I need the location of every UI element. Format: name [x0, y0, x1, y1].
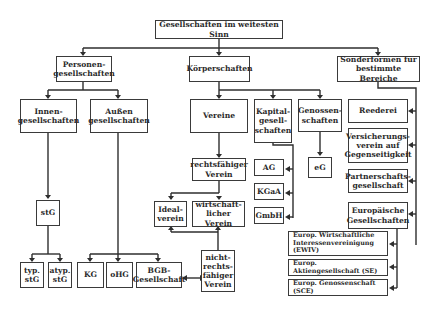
node-atyp-stg: atyp. stG: [48, 262, 72, 288]
node-rechtsfaehiger-verein: rechtsfähiger Verein: [192, 158, 246, 181]
node-root: Gesellschaften im weitesten Sinn: [155, 20, 283, 39]
node-sce: Europ. Genossenschaft (SCE): [288, 279, 388, 296]
node-genossenschaften: Genossen- schaften: [298, 99, 342, 132]
node-se: Europ. Aktiengesellschaft (SE): [288, 259, 388, 276]
node-kapitalgesellschaften: Kapital- gesell- schaften: [254, 99, 292, 143]
node-sonderformen: Sonderformen für bestimmte Bereiche: [337, 56, 420, 82]
node-ag: AG: [254, 159, 284, 176]
node-kgaa: KGaA: [254, 183, 284, 200]
legal-forms-diagram: Gesellschaften im weitesten Sinn Persone…: [0, 0, 435, 310]
node-partnerschaftsgesellschaft: Partnerschafts- gesellschaft: [348, 169, 408, 193]
node-personengesellschaften: Personen- gesellschaften: [56, 56, 112, 82]
node-aussengesellschaften: Außen gesellschaften: [90, 99, 148, 133]
node-ewiv: Europ. Wirtschaftliche Interessenvereini…: [288, 231, 388, 256]
node-idealverein: Ideal- verein: [154, 201, 187, 227]
node-eg: eG: [308, 157, 332, 178]
node-wirtschaftlicher-verein: wirtschaft- licher Verein: [192, 201, 245, 227]
node-kg: KG: [77, 262, 104, 288]
node-innengesellschaften: Innen- gesellschaften: [20, 99, 77, 133]
node-stg: stG: [36, 200, 60, 226]
node-reederei: Reederei: [348, 99, 408, 123]
node-nichtrechtsfaehiger-verein: nicht- rechts- fähiger Verein: [201, 250, 235, 292]
node-bgb-gesellschaft: BGB- Gesellschaft: [136, 262, 182, 288]
node-gmbh: GmbH: [254, 207, 284, 224]
node-versicherungsverein: Versicherungs- verein auf Gegenseitigkei…: [348, 128, 408, 163]
node-europaeische-gesellschaften: Europäische Gesellschaften: [348, 202, 408, 229]
node-ohg: oHG: [106, 262, 133, 288]
node-koerperschaften: Körperschaften: [189, 56, 250, 82]
node-typ-stg: typ. stG: [20, 262, 44, 288]
node-vereine: Vereine: [190, 99, 248, 133]
